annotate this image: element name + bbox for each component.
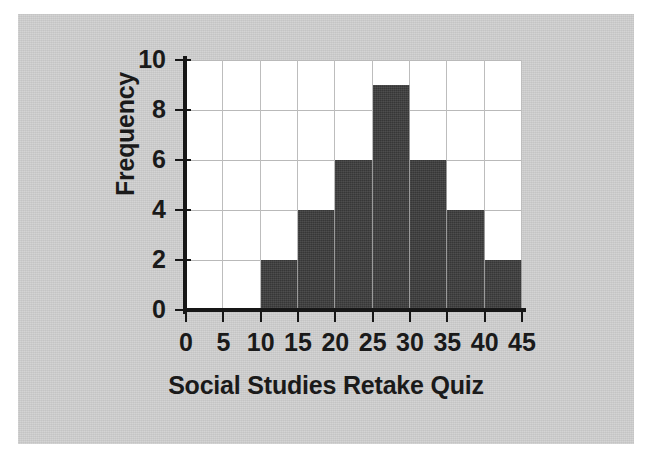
histogram-bar	[298, 210, 335, 310]
y-axis-tick-label: 4	[126, 197, 166, 222]
x-axis-tick	[334, 310, 336, 322]
x-axis-tick	[185, 310, 187, 322]
y-axis-tick-label: 10	[126, 47, 166, 72]
x-axis-tick	[260, 310, 262, 322]
bar-series	[186, 60, 522, 310]
scanned-page-area: Frequency 0246810 051015202530354045 Soc…	[18, 14, 634, 444]
x-axis-tick	[222, 310, 224, 322]
x-axis-tick-label: 45	[499, 330, 545, 355]
x-axis-tick	[297, 310, 299, 322]
x-axis-tick	[521, 310, 523, 322]
histogram-bar	[447, 210, 484, 310]
y-axis-tick-label: 2	[126, 247, 166, 272]
histogram-bar	[335, 160, 372, 310]
histogram-screenshot: Frequency 0246810 051015202530354045 Soc…	[0, 0, 658, 468]
x-axis-line	[183, 308, 526, 312]
y-axis-tick-label: 6	[126, 147, 166, 172]
y-axis-tick	[175, 59, 191, 61]
y-axis-tick	[175, 109, 191, 111]
y-axis-tick	[175, 259, 191, 261]
y-axis-tick-label: 8	[126, 97, 166, 122]
x-axis-tick	[484, 310, 486, 322]
histogram-bar	[373, 85, 410, 310]
x-axis-tick	[409, 310, 411, 322]
histogram-bar	[261, 260, 298, 310]
x-axis-tick	[372, 310, 374, 322]
x-axis-tick	[446, 310, 448, 322]
histogram-figure: Frequency 0246810 051015202530354045 Soc…	[18, 14, 634, 444]
histogram-bar	[485, 260, 522, 310]
y-axis-line	[183, 56, 187, 314]
y-axis-tick	[175, 159, 191, 161]
y-axis-tick	[175, 209, 191, 211]
y-axis-tick-label: 0	[126, 297, 166, 322]
histogram-bar	[410, 160, 447, 310]
plot-area	[186, 60, 522, 310]
x-axis-title: Social Studies Retake Quiz	[18, 371, 634, 400]
y-axis-tick	[175, 309, 191, 311]
